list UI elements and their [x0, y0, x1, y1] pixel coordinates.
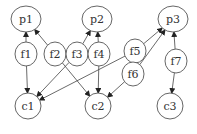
edge-f4-to-p2: [98, 32, 99, 42]
node-label: f3: [71, 48, 82, 61]
edge-f2-to-c2: [62, 63, 89, 96]
node-c1: c1: [15, 93, 41, 119]
edge-f5-to-p3: [144, 28, 163, 44]
node-p1: p1: [11, 6, 41, 32]
node-p3: p3: [158, 6, 188, 32]
node-f4: f4: [88, 42, 110, 66]
nodes-layer: p1p2p3f1f2f3f4f5f6f7c1c2c3: [11, 6, 188, 119]
node-f5: f5: [124, 39, 146, 63]
node-p2: p2: [82, 6, 112, 32]
edge-f6-to-c2: [108, 82, 125, 98]
node-label: p3: [166, 13, 180, 26]
node-f7: f7: [165, 49, 187, 73]
edge-f7-to-c3: [172, 73, 175, 93]
node-f3: f3: [66, 42, 88, 66]
node-c3: c3: [157, 93, 183, 119]
node-label: c2: [91, 100, 104, 113]
node-f1: f1: [15, 42, 37, 66]
node-label: c1: [21, 100, 34, 113]
edge-f2-to-p1: [35, 30, 48, 45]
node-label: f6: [127, 68, 138, 81]
node-label: f4: [93, 48, 104, 61]
node-f2: f2: [44, 42, 66, 66]
node-label: p2: [90, 13, 104, 26]
node-label: c3: [163, 100, 176, 113]
node-label: f5: [129, 45, 140, 58]
edge-f7-to-p3: [174, 32, 175, 49]
dependency-graph: p1p2p3f1f2f3f4f5f6f7c1c2c3: [0, 0, 197, 134]
node-c2: c2: [85, 93, 111, 119]
node-label: p1: [19, 13, 33, 26]
edge-f1-to-c1: [27, 66, 28, 93]
edge-f3-to-p2: [83, 31, 91, 44]
node-label: f2: [49, 48, 60, 61]
node-label: f1: [20, 48, 31, 61]
edge-f3-to-c1: [37, 62, 69, 96]
node-f6: f6: [122, 62, 144, 86]
node-label: f7: [170, 55, 181, 68]
